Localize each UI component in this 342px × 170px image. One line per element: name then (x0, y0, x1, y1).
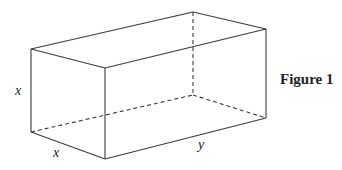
figure-caption: Figure 1 (280, 71, 333, 87)
length-label: y (196, 137, 205, 152)
hidden-edge-bottom-back (193, 95, 266, 118)
edge-bottom-right (105, 118, 266, 159)
hidden-edge-bottom-left (31, 95, 193, 132)
visible-edges (31, 12, 266, 159)
hidden-edges (31, 12, 266, 132)
edge-front-bottom (31, 132, 105, 159)
height-label: x (14, 83, 22, 98)
edge-top-back (193, 12, 266, 29)
edge-front-top (31, 49, 105, 68)
edge-top-right (105, 29, 266, 68)
depth-label: x (52, 145, 60, 160)
cuboid-diagram: x x y Figure 1 (0, 0, 342, 170)
edge-top-back-left (31, 12, 193, 49)
